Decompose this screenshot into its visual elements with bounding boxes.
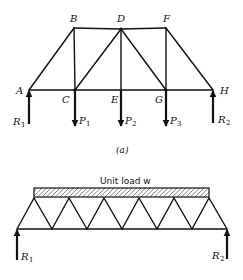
node-label-e: E — [110, 94, 119, 105]
reaction-subscript: 1 — [29, 256, 33, 264]
node-label-a: A — [15, 85, 23, 96]
truss-a — [29, 28, 213, 90]
reaction-subscript: 2 — [226, 119, 230, 127]
reaction-label: R — [20, 251, 29, 262]
truss-figure: A B C D E F G H R 1 R 2 P 1 P 2 P 3 (a) … — [0, 0, 243, 280]
diagonal — [34, 198, 52, 229]
diagonal — [209, 198, 227, 229]
load-p2: P 2 — [121, 90, 136, 128]
load-subscript: 2 — [132, 120, 136, 128]
reaction-r2-a: R 2 — [213, 91, 230, 127]
diagonal — [69, 198, 87, 229]
node-label-d: D — [116, 13, 125, 24]
node-label-c: C — [62, 94, 70, 105]
member-df — [121, 28, 166, 29]
reaction-r2-b: R 2 — [211, 230, 227, 263]
reaction-r1-a: R 1 — [12, 91, 29, 129]
reaction-subscript: 1 — [21, 121, 25, 129]
diagonal — [174, 198, 192, 229]
diagonal — [157, 198, 174, 229]
node-label-g: G — [155, 94, 163, 105]
node-label-h: H — [219, 85, 229, 96]
load-p1: P 1 — [75, 90, 90, 128]
reaction-r1-b: R 1 — [17, 230, 33, 264]
distributed-load-hatch — [34, 188, 209, 197]
diagonal — [87, 198, 104, 229]
reaction-subscript: 2 — [220, 255, 224, 263]
diagonal — [192, 198, 209, 229]
node-label-f: F — [162, 13, 171, 24]
load-label: P — [78, 115, 86, 126]
joint-d — [119, 27, 122, 30]
load-p3: P 3 — [166, 90, 181, 128]
distributed-load-label: Unit load w — [100, 176, 151, 186]
member-cd — [75, 29, 121, 90]
reaction-label: R — [12, 116, 21, 127]
diagonal — [104, 198, 122, 229]
reaction-label: R — [211, 250, 220, 261]
diagonal — [122, 198, 139, 229]
load-label: P — [169, 115, 177, 126]
figure-caption: (a) — [116, 145, 129, 155]
diagonal — [139, 198, 157, 229]
diagonal — [52, 198, 69, 229]
truss-b — [17, 198, 227, 229]
node-label-b: B — [69, 13, 77, 24]
member-bc — [74, 28, 75, 90]
member-ab — [29, 28, 74, 90]
member-bd — [74, 28, 121, 29]
member-fh — [166, 28, 213, 90]
reaction-label: R — [217, 114, 226, 125]
load-subscript: 1 — [86, 120, 90, 128]
diagonal — [17, 198, 34, 229]
load-label: P — [124, 115, 132, 126]
load-subscript: 3 — [177, 120, 181, 128]
member-dg — [121, 29, 166, 90]
